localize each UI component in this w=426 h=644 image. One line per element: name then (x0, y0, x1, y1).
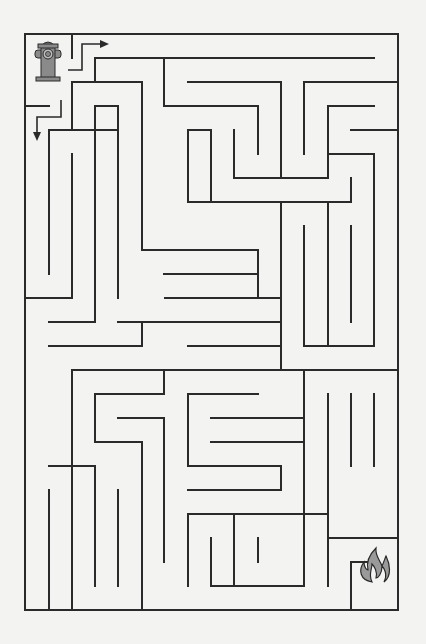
arrowhead-icon (33, 132, 41, 141)
fire-icon (361, 548, 390, 582)
arrowhead-icon (100, 40, 109, 48)
maze-board (0, 0, 426, 644)
fire-hydrant-icon (35, 42, 61, 81)
maze-walls (25, 34, 398, 610)
